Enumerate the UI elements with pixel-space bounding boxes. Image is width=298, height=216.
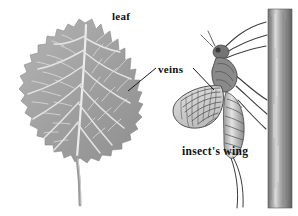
mayfly-illustration — [173, 22, 267, 208]
label-veins: veins — [158, 63, 183, 75]
label-insect-wing: insect's wing — [182, 145, 248, 157]
mayfly-antennae — [201, 31, 215, 47]
illustration-artwork — [0, 0, 298, 216]
label-leaf: leaf — [112, 10, 130, 22]
leaf-illustration — [19, 19, 143, 205]
mayfly-head — [213, 45, 229, 59]
plant-stem — [268, 9, 292, 208]
figure-canvas: leaf veins insect's wing — [0, 0, 298, 216]
mayfly-eye — [215, 47, 220, 52]
mayfly-cerci — [231, 157, 243, 208]
